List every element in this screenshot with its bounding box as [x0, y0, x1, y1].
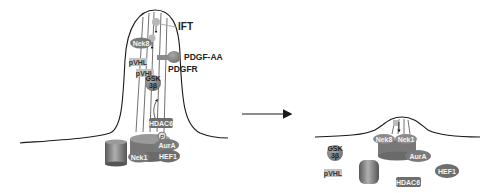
hdac6-protein-right: HDAC6 [396, 177, 421, 187]
nek1-label-right: Nek1 [398, 136, 415, 143]
phosphate-marker: P [158, 132, 166, 140]
pvhl-protein-right: pVHL [324, 169, 343, 178]
hef1-protein-right: HEF1 [435, 164, 459, 178]
nek8-label-right: Nek8 [376, 136, 393, 143]
pvhl-protein-1: pVHL [129, 58, 148, 67]
pdgf-aa-label: PDGF-AA [184, 52, 223, 62]
aura-label-right: AurA [409, 153, 426, 160]
residual-ift [393, 120, 398, 126]
centriole-cylinder-right [359, 160, 379, 184]
gsk3b-protein-right: GSK 3β [327, 145, 343, 161]
hef1-label-right: HEF1 [438, 168, 456, 175]
pdgfr-label: PDGFR [168, 64, 198, 74]
nek8-protein: Nek8 [130, 38, 152, 49]
cilium-membrane [20, 10, 228, 143]
centriole-cylinder [105, 140, 127, 167]
nek1-label: Nek1 [131, 154, 148, 161]
aura-protein: AurA [155, 139, 179, 151]
hdac6-protein: HDAC6 [149, 118, 173, 128]
gsk3b-protein: GSK 3β [145, 75, 161, 91]
cilium-diagram: IFT PDGF-AA PDGFR Nek8 pVHL pVHL GSK 3β [0, 0, 491, 193]
hdac6-label-right: HDAC6 [396, 179, 420, 186]
aura-label: AurA [158, 142, 175, 149]
nek1-protein: Nek1 [128, 152, 150, 163]
phosphate-label: P [160, 134, 164, 140]
gsk-label-line2-right: 3β [331, 152, 340, 160]
gsk-label-line1: GSK [145, 75, 160, 82]
aura-protein-right: AurA [405, 150, 431, 162]
hdac6-arrow [154, 100, 157, 120]
hdac6-label: HDAC6 [149, 120, 173, 127]
hef1-protein: HEF1 [156, 150, 180, 163]
pvhl-label-1: pVHL [129, 59, 148, 67]
hef1-label: HEF1 [159, 153, 177, 160]
pvhl-label-right: pVHL [324, 170, 343, 178]
gsk-label-line1-right: GSK [327, 145, 342, 152]
nek8-label: Nek8 [133, 40, 150, 47]
right-panel-resorbed-cilium: Nek8 Nek1 AurA GSK 3β pVHL HEF1 HD [315, 117, 480, 187]
pdgfr-receptor [157, 51, 181, 63]
ift-label: IFT [178, 21, 193, 32]
nek1-protein-right: Nek1 [395, 134, 417, 144]
gsk-label-line2: 3β [149, 82, 158, 90]
nek8-protein-right: Nek8 [373, 134, 395, 144]
left-panel-ciliated-cell: IFT PDGF-AA PDGFR Nek8 pVHL pVHL GSK 3β [20, 10, 228, 167]
